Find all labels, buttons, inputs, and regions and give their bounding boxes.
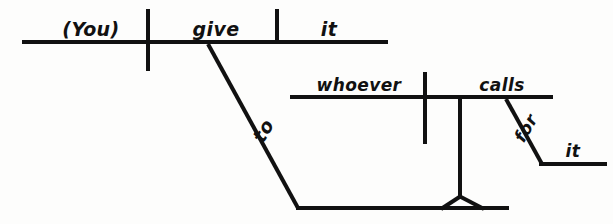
- word-direct-object: it: [321, 18, 338, 40]
- word-subject: (You): [62, 18, 119, 40]
- word-verb: give: [193, 18, 240, 40]
- diagram-canvas: (You) give it to whoever calls for it: [0, 0, 613, 224]
- word-clause-subject: whoever: [317, 75, 403, 95]
- sentence-diagram: (You) give it to whoever calls for it: [0, 0, 613, 224]
- word-preposition-to: to: [248, 115, 279, 146]
- word-prep-object-it: it: [566, 141, 581, 161]
- word-clause-verb: calls: [479, 75, 524, 95]
